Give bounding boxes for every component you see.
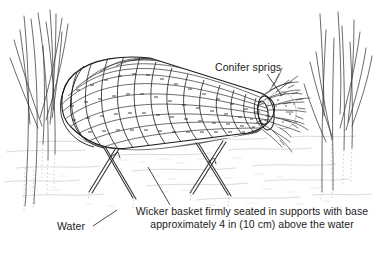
water-ripples bbox=[4, 136, 372, 200]
leader-caption bbox=[148, 167, 170, 205]
reeds-left-reflection bbox=[24, 144, 55, 210]
figure-canvas: Conifer sprigs Water Wicker basket firml… bbox=[0, 0, 381, 253]
caption-line-2: approximately 4 in (10 cm) above the wat… bbox=[126, 218, 378, 231]
label-conifer-sprigs: Conifer sprigs bbox=[215, 62, 281, 74]
water-texture-marks bbox=[30, 158, 331, 206]
caption-block: Wicker basket firmly seated in supports … bbox=[126, 205, 378, 230]
leader-water bbox=[93, 210, 117, 226]
reeds-left bbox=[10, 10, 68, 206]
label-water: Water bbox=[57, 221, 85, 233]
reeds-right-reflection bbox=[321, 140, 352, 200]
caption-line-1: Wicker basket firmly seated in supports … bbox=[126, 205, 378, 218]
